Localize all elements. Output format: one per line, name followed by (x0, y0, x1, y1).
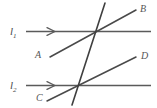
label-point-d: D (141, 51, 148, 61)
geometry-figure: l1 l2 A B C D (0, 0, 157, 108)
label-point-a: A (35, 50, 41, 60)
transversal-cd (47, 57, 136, 101)
label-point-b: B (140, 4, 146, 14)
transversal-ab (50, 10, 136, 57)
label-line-l1: l1 (10, 26, 17, 40)
transversal-steep (72, 3, 105, 105)
label-point-c: C (36, 93, 43, 103)
figure-canvas (0, 0, 157, 108)
label-line-l2: l2 (10, 80, 17, 94)
